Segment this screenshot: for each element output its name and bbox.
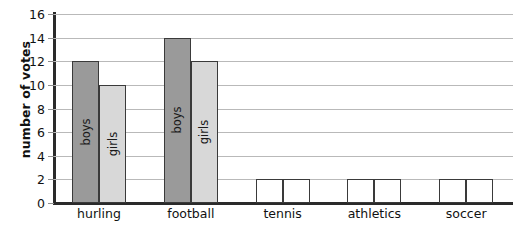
x-axis-category-label: hurling: [77, 206, 121, 221]
y-axis-tick: [48, 85, 54, 86]
bar-series-label: girls: [197, 120, 211, 144]
bar-soccer-girls: [466, 179, 493, 203]
bar-athletics-boys: [347, 179, 374, 203]
y-axis-tick: [48, 38, 54, 39]
y-axis-tick: [48, 14, 54, 15]
bar-hurling-boys: boys: [72, 61, 99, 203]
y-axis-tick: [48, 109, 54, 110]
x-axis-category-label: soccer: [446, 206, 487, 221]
bar-chart: number of votes 0246810121416boysgirlsbo…: [0, 0, 519, 229]
gridline: [54, 61, 513, 62]
bar-hurling-girls: girls: [99, 85, 126, 203]
plot-area: 0246810121416boysgirlsboysgirls: [54, 14, 513, 203]
y-axis-tick-label: 0: [37, 196, 45, 211]
bar-tennis-boys: [256, 179, 283, 203]
bar-series-label: boys: [170, 107, 184, 134]
y-axis-tick-label: 4: [37, 148, 45, 163]
x-axis-category-label: tennis: [263, 206, 301, 221]
y-axis-tick-label: 14: [29, 30, 45, 45]
bar-football-girls: girls: [191, 61, 218, 203]
y-axis-tick: [48, 61, 54, 62]
y-axis-tick-label: 12: [29, 54, 45, 69]
y-axis-tick-label: 6: [37, 125, 45, 140]
y-axis-tick-label: 8: [37, 101, 45, 116]
x-axis-category-label: athletics: [348, 206, 401, 221]
bar-athletics-girls: [374, 179, 401, 203]
y-axis-tick: [48, 156, 54, 157]
gridline: [54, 14, 513, 15]
bar-series-label: boys: [79, 119, 93, 146]
bar-tennis-girls: [283, 179, 310, 203]
y-axis-tick-label: 10: [29, 77, 45, 92]
bar-soccer-boys: [439, 179, 466, 203]
y-axis-tick-label: 2: [37, 172, 45, 187]
y-axis-tick: [48, 179, 54, 180]
x-axis-category-label: football: [167, 206, 214, 221]
y-axis-tick: [48, 203, 54, 204]
y-axis-tick-label: 16: [29, 7, 45, 22]
gridline: [54, 38, 513, 39]
bar-football-boys: boys: [164, 38, 191, 203]
y-axis-tick: [48, 132, 54, 133]
bar-series-label: girls: [106, 132, 120, 156]
y-axis-title: number of votes: [18, 30, 33, 170]
